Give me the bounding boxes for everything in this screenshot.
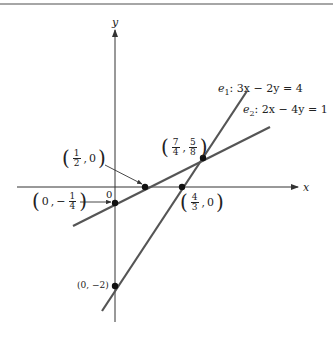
e2-label: e2: 2x − 4y = 1 [243, 104, 328, 118]
point-half [142, 184, 148, 190]
label-intersection: ( 74 , 58 ) [161, 137, 208, 157]
origin-label: 0 [106, 190, 112, 200]
label-quarter: ( 0 , − 14 ) [32, 191, 87, 211]
arrow-half [105, 165, 142, 184]
diagram-svg [0, 0, 333, 342]
label-fourthirds: ( 43 , 0 ) [180, 192, 224, 212]
label-half: ( 12 , 0 ) [62, 148, 106, 168]
point-minus2 [112, 283, 118, 289]
x-axis-label: x [303, 182, 309, 193]
point-quarter [112, 200, 118, 206]
y-axis-label: y [112, 17, 118, 28]
e1-label: e1: 3x − 2y = 4 [218, 83, 303, 97]
label-minus2: (0, −2) [77, 281, 109, 290]
diagram-canvas: y x 0 e1: 3x − 2y = 4 e2: 2x − 4y = 1 ( … [0, 0, 333, 342]
